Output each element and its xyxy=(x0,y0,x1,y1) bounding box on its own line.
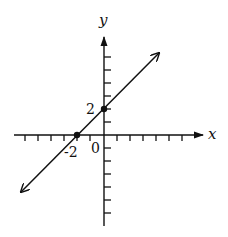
y-axis-label: y xyxy=(98,11,108,29)
coordinate-plane: y x 2 -2 0 xyxy=(0,0,228,237)
y-intercept-label: 2 xyxy=(86,101,95,117)
x-intercept-label: -2 xyxy=(64,144,78,160)
origin-label: 0 xyxy=(91,140,100,156)
x-intercept-point xyxy=(74,132,80,138)
x-axis-label: x xyxy=(208,125,217,143)
y-intercept-point xyxy=(101,106,107,112)
graph-line xyxy=(21,53,159,192)
